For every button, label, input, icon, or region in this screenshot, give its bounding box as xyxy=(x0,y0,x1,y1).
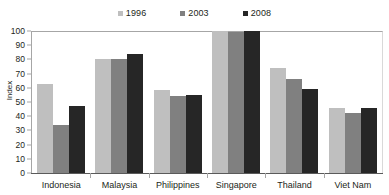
bar-group xyxy=(149,31,207,173)
y-tick-label: 100 xyxy=(11,27,25,36)
bar-group xyxy=(90,31,148,173)
y-tick-mark xyxy=(27,31,31,32)
legend-swatch-icon xyxy=(180,11,185,16)
y-tick-mark xyxy=(27,116,31,117)
y-tick-mark xyxy=(27,45,31,46)
bar-group xyxy=(32,31,90,173)
bar xyxy=(53,125,69,173)
bar-group xyxy=(207,31,265,173)
bar xyxy=(228,32,244,173)
y-tick-label: 60 xyxy=(16,84,25,93)
x-axis-labels: IndonesiaMalaysiaPhilippinesSingaporeTha… xyxy=(32,180,382,190)
y-tick-mark xyxy=(27,130,31,131)
legend-entry: 2008 xyxy=(243,9,271,18)
bar xyxy=(302,89,318,173)
x-axis-category-label: Indonesia xyxy=(32,180,90,190)
bar xyxy=(111,59,127,173)
bar xyxy=(37,84,53,173)
x-axis-category-label: Philippines xyxy=(149,180,207,190)
y-tick-label: 80 xyxy=(16,55,25,64)
bar-chart: 199620032008 Index 100908070605040302010… xyxy=(0,0,389,195)
bar xyxy=(170,96,186,173)
legend-entry: 1996 xyxy=(118,9,146,18)
bar xyxy=(244,31,260,173)
bar xyxy=(69,106,85,173)
y-tick-label: 10 xyxy=(16,155,25,164)
y-tick-label: 0 xyxy=(20,169,25,178)
y-tick-label: 20 xyxy=(16,140,25,149)
x-axis-category-label: Malaysia xyxy=(90,180,148,190)
x-axis-category-label: Singapore xyxy=(207,180,265,190)
legend-label: 2008 xyxy=(251,9,271,18)
bar-group xyxy=(324,31,382,173)
y-tick-mark xyxy=(27,73,31,74)
y-tick-label: 90 xyxy=(16,41,25,50)
chart-legend: 199620032008 xyxy=(0,5,389,21)
legend-entry: 2003 xyxy=(180,9,208,18)
bar xyxy=(270,68,286,173)
bar xyxy=(154,90,170,173)
y-tick-label: 50 xyxy=(16,98,25,107)
bar xyxy=(345,113,361,173)
y-tick-mark xyxy=(27,173,31,174)
bars-layer xyxy=(32,31,382,173)
bar xyxy=(329,108,345,173)
legend-label: 2003 xyxy=(188,9,208,18)
bar xyxy=(127,54,143,173)
legend-label: 1996 xyxy=(126,9,146,18)
y-tick-mark xyxy=(27,144,31,145)
bar-group xyxy=(265,31,323,173)
x-axis-category-label: Viet Nam xyxy=(324,180,382,190)
bar xyxy=(212,31,228,173)
y-tick-label: 30 xyxy=(16,126,25,135)
bar xyxy=(361,108,377,173)
y-axis-ticks: 1009080706050403020100 xyxy=(0,31,31,173)
bar xyxy=(186,95,202,173)
y-tick-label: 40 xyxy=(16,112,25,121)
y-tick-mark xyxy=(27,87,31,88)
legend-swatch-icon xyxy=(118,11,123,16)
y-tick-mark xyxy=(27,59,31,60)
y-tick-mark xyxy=(27,158,31,159)
x-axis-category-label: Thailand xyxy=(265,180,323,190)
y-tick-mark xyxy=(27,102,31,103)
y-tick-label: 70 xyxy=(16,69,25,78)
bar xyxy=(286,79,302,173)
bar xyxy=(95,59,111,173)
legend-swatch-icon xyxy=(243,11,248,16)
